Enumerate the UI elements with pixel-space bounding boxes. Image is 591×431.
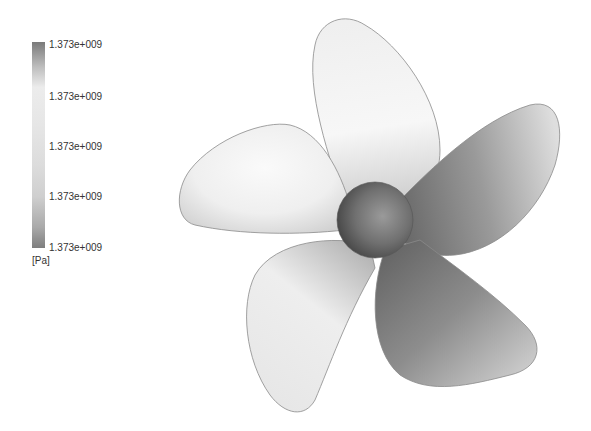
blade-bottom-right — [375, 240, 537, 387]
blade-bottom-left — [247, 240, 375, 411]
propeller-contour-plot — [0, 0, 591, 431]
propeller-hub — [337, 182, 413, 258]
